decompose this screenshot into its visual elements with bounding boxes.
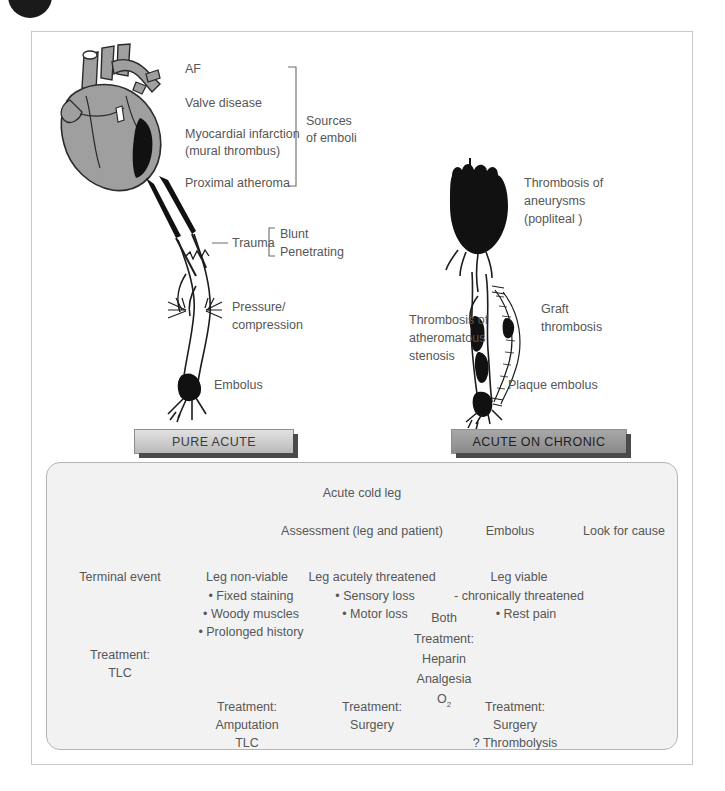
flow-branch-heading-leg-viable: Leg viable bbox=[491, 570, 548, 585]
banner-shadow-bottom bbox=[139, 453, 298, 458]
label-trauma-penetrating: Penetrating bbox=[280, 245, 344, 260]
flow-treatment-viable-line1: Treatment: bbox=[485, 700, 545, 715]
flow-both-treatment-line1: Treatment: bbox=[414, 632, 474, 647]
flow-root-acute-cold-leg: Acute cold leg bbox=[323, 486, 402, 501]
label-stenosis-line2: atheromatous bbox=[409, 331, 485, 346]
flow-treatment-terminal-line2: TLC bbox=[108, 666, 132, 681]
flow-treatment-acute-line1: Treatment: bbox=[342, 700, 402, 715]
banner-acute-on-chronic-label: ACUTE ON CHRONIC bbox=[473, 435, 606, 449]
flow-bullet-prolonged-history: • Prolonged history bbox=[198, 625, 303, 640]
flow-bullet-rest-pain: • Rest pain bbox=[496, 607, 557, 622]
flow-bullet-sensory-loss: • Sensory loss bbox=[335, 589, 414, 604]
oxygen-base: O bbox=[437, 692, 447, 706]
banner-acute-on-chronic: ACUTE ON CHRONIC bbox=[451, 429, 627, 454]
flow-treatment-acute-line2: Surgery bbox=[350, 718, 394, 733]
flow-treatment-nonviable-line1: Treatment: bbox=[217, 700, 277, 715]
flow-both-treatment-oxygen: O2 bbox=[437, 692, 451, 709]
flow-embolus: Embolus bbox=[486, 524, 535, 539]
label-trauma-blunt: Blunt bbox=[280, 227, 309, 242]
label-graft-line1: Graft bbox=[541, 302, 569, 317]
label-stenosis-line1: Thrombosis of bbox=[409, 313, 488, 328]
label-pressure-line1: Pressure/ bbox=[232, 300, 286, 315]
flow-bullet-chronically-threatened: - chronically threatened bbox=[454, 589, 584, 604]
banner-pure-acute: PURE ACUTE bbox=[134, 429, 294, 454]
banner-shadow-bottom bbox=[456, 453, 631, 458]
flow-branch-heading-leg-acutely-threatened: Leg acutely threatened bbox=[308, 570, 435, 585]
oxygen-subscript: 2 bbox=[447, 700, 451, 709]
label-plaque-embolus: Plaque embolus bbox=[508, 378, 598, 393]
label-graft-line2: thrombosis bbox=[541, 320, 602, 335]
flow-treatment-viable-line2: Surgery bbox=[493, 718, 537, 733]
flow-treatment-nonviable-line2: Amputation bbox=[215, 718, 278, 733]
label-trauma: Trauma bbox=[232, 236, 275, 251]
source-label-af: AF bbox=[185, 62, 201, 77]
source-label-proximal-atheroma: Proximal atheroma bbox=[185, 176, 290, 191]
label-aneurysm-line1: Thrombosis of bbox=[524, 176, 603, 191]
sources-of-emboli-line1: Sources bbox=[306, 114, 352, 129]
flow-treatment-viable-line3: ? Thrombolysis bbox=[473, 736, 558, 751]
flow-bullet-motor-loss: • Motor loss bbox=[342, 607, 408, 622]
source-label-mi: Myocardial infarction bbox=[185, 127, 300, 142]
source-label-mural-thrombus: (mural thrombus) bbox=[185, 144, 280, 159]
flow-branch-heading-terminal-event: Terminal event bbox=[79, 570, 160, 585]
flow-both-treatment-heparin: Heparin bbox=[422, 652, 466, 667]
label-aneurysm-line3: (popliteal ) bbox=[524, 212, 582, 227]
flow-both-treatment-analgesia: Analgesia bbox=[417, 672, 472, 687]
label-aneurysm-line2: aneurysms bbox=[524, 194, 585, 209]
flow-bullet-woody-muscles: • Woody muscles bbox=[203, 607, 299, 622]
flow-treatment-nonviable-line3: TLC bbox=[235, 736, 259, 751]
flow-both-label: Both bbox=[431, 611, 457, 626]
flow-branch-heading-leg-non-viable: Leg non-viable bbox=[206, 570, 288, 585]
flow-look-for-cause: Look for cause bbox=[583, 524, 665, 539]
flow-treatment-terminal-line1: Treatment: bbox=[90, 648, 150, 663]
banner-pure-acute-label: PURE ACUTE bbox=[172, 435, 256, 449]
label-embolus: Embolus bbox=[214, 378, 263, 393]
label-pressure-line2: compression bbox=[232, 318, 303, 333]
source-label-valve-disease: Valve disease bbox=[185, 96, 262, 111]
flow-bullet-fixed-staining: • Fixed staining bbox=[209, 589, 294, 604]
page-corner-mark bbox=[8, 0, 52, 18]
sources-of-emboli-line2: of emboli bbox=[306, 131, 357, 146]
label-stenosis-line3: stenosis bbox=[409, 349, 455, 364]
flow-assessment: Assessment (leg and patient) bbox=[281, 524, 443, 539]
